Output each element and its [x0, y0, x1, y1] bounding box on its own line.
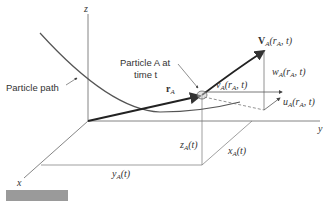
- w-component-label: wA(rA, t): [272, 67, 306, 79]
- y-axis-label: y: [318, 124, 322, 134]
- velocity-label: VA(rA, t): [258, 36, 292, 48]
- particle-a-label-1: Particle A at: [120, 58, 170, 68]
- z-axis-label: z: [84, 4, 88, 14]
- y-coord-label: yA(t): [112, 169, 130, 181]
- position-vector-label: rA: [166, 84, 175, 96]
- x-axis: [24, 121, 88, 178]
- u-component-label: uA(rA, t): [283, 97, 315, 109]
- u-component: [264, 98, 280, 110]
- x-coord-label: xA(t): [228, 146, 246, 158]
- particle-path-label: Particle path: [6, 83, 59, 93]
- z-coord-label: zA(t): [180, 140, 198, 152]
- particle-a: [197, 91, 207, 99]
- particle-a-label-2: time t: [134, 70, 157, 80]
- v-component-label: vA(rA, t): [216, 80, 247, 92]
- particle-leader: [178, 64, 198, 88]
- x-coord-line: [202, 121, 252, 165]
- x-axis-label: x: [17, 178, 21, 188]
- figure-caption-bar: [6, 190, 68, 201]
- position-vector: [88, 96, 200, 121]
- path-leader: [66, 78, 77, 85]
